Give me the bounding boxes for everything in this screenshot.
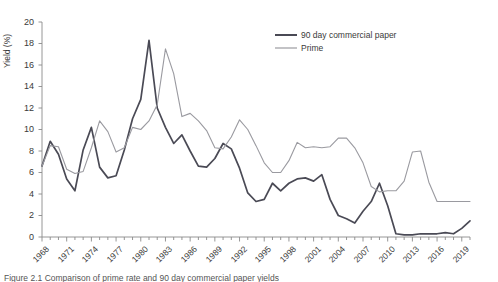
data-series-group — [42, 40, 470, 235]
legend-label-prime: Prime — [301, 42, 323, 55]
figure-container: Yield (%) 02468101214161820 196819711974… — [0, 0, 498, 282]
legend-swatch-commercial-paper — [275, 29, 297, 42]
line-chart-plot — [0, 0, 498, 282]
axis-tick-marks — [39, 22, 471, 242]
figure-caption: Figure 2.1 Comparison of prime rate and … — [4, 273, 279, 282]
legend-item-prime: Prime — [275, 42, 396, 55]
legend-label-commercial-paper: 90 day commercial paper — [301, 29, 396, 42]
legend-swatch-prime — [275, 42, 297, 55]
chart-legend: 90 day commercial paper Prime — [275, 29, 396, 55]
legend-item-commercial-paper: 90 day commercial paper — [275, 29, 396, 42]
